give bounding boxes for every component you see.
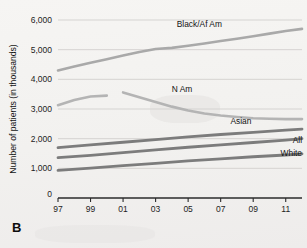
series-label-asian: Asian: [230, 116, 251, 126]
series-label-n-am: N Am: [172, 84, 192, 94]
y-tick-label: 3,000: [31, 104, 53, 114]
y-origin-label: 0: [47, 189, 52, 199]
y-tick-label: 2,000: [31, 134, 53, 144]
x-tick-label: 97: [53, 204, 63, 214]
x-tick-label: 01: [118, 204, 128, 214]
x-tick-label: 07: [216, 204, 226, 214]
y-tick-label: 6,000: [31, 15, 53, 25]
line-chart-svg: 1,0002,0003,0004,0005,0006,0000979901030…: [0, 0, 307, 248]
series-label-black-af-am: Black/Af Am: [177, 19, 222, 29]
series-label-white: White: [281, 148, 303, 158]
y-tick-label: 4,000: [31, 74, 53, 84]
y-tick-label: 5,000: [31, 45, 53, 55]
x-tick-label: 03: [151, 204, 161, 214]
series-line-n-am: [123, 92, 302, 119]
x-tick-label: 05: [183, 204, 193, 214]
x-tick-label: 99: [86, 204, 96, 214]
y-tick-label: 1,000: [31, 163, 53, 173]
chart-panel: 1,0002,0003,0004,0005,0006,0000979901030…: [0, 0, 307, 248]
series-line-n-am-segment-1: [58, 96, 107, 105]
panel-label: B: [12, 220, 21, 235]
x-tick-label: 09: [248, 204, 258, 214]
x-tick-label: 11: [281, 204, 290, 214]
series-label-all: All: [293, 135, 302, 145]
y-axis-title: Number of patients (in thousands): [8, 44, 18, 174]
